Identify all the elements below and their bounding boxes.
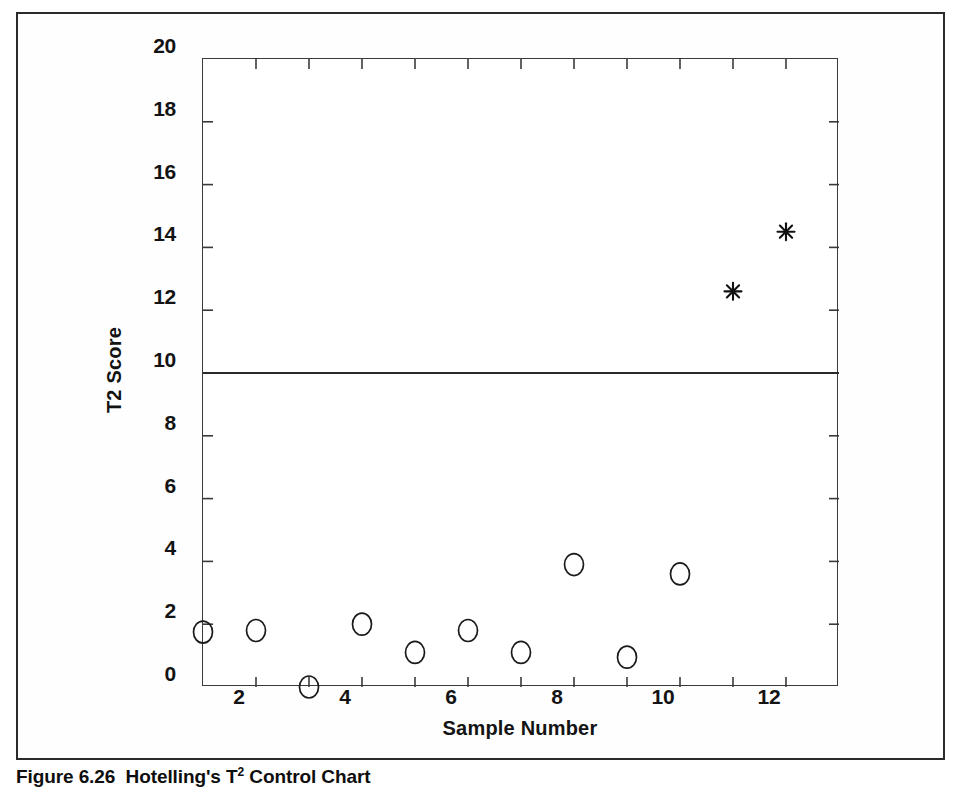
y-axis-tick-label: 4 (120, 536, 176, 560)
figure-frame: 02468101214161820 24681012 T2 Score Samp… (16, 12, 945, 760)
x-axis-tick-label: 4 (339, 685, 350, 709)
y-axis-tick-label: 8 (120, 411, 176, 435)
y-axis-tick-label: 10 (120, 348, 176, 372)
x-axis-tick-label: 8 (551, 685, 562, 709)
x-axis-title: Sample Number (443, 717, 598, 740)
figure-caption: Figure 6.26 Hotelling's T2 Control Chart (16, 765, 370, 788)
y-axis-tick-label: 2 (120, 599, 176, 623)
y-axis-tick-label: 18 (120, 97, 176, 121)
y-axis-tick-label: 14 (120, 222, 176, 246)
caption-suffix: Control Chart (244, 766, 370, 787)
plot-canvas (203, 59, 839, 687)
x-axis-tick-label: 2 (233, 685, 244, 709)
y-axis-tick-label: 20 (120, 34, 176, 58)
plot-area (202, 58, 838, 686)
y-axis-tick-label: 12 (120, 285, 176, 309)
y-axis-tick-label: 16 (120, 160, 176, 184)
x-axis-tick-label: 12 (758, 685, 781, 709)
caption-prefix: Figure 6.26 (16, 766, 115, 787)
y-axis-tick-label: 6 (120, 474, 176, 498)
x-axis-tick-label: 6 (445, 685, 456, 709)
caption-text: Hotelling's T (126, 766, 238, 787)
y-axis-title: T2 Score (103, 327, 126, 413)
y-axis-tick-label: 0 (120, 662, 176, 686)
x-axis-tick-label: 10 (652, 685, 675, 709)
data-markers (194, 223, 795, 698)
